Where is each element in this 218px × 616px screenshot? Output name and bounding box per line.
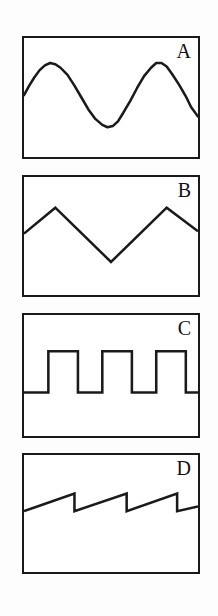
sine-wave-path — [24, 63, 198, 127]
panel-label-d: D — [177, 456, 191, 480]
waveform-plot-triangle — [24, 177, 198, 295]
figure-root: A B C D — [0, 0, 218, 616]
waveform-panel-a: A — [22, 36, 200, 159]
waveform-panel-b: B — [22, 175, 200, 297]
waveform-plot-sawtooth — [24, 455, 198, 572]
waveform-plot-square — [24, 315, 198, 436]
square-wave-path — [24, 351, 198, 392]
waveform-panel-c: C — [22, 313, 200, 438]
panel-label-b: B — [178, 178, 191, 202]
panel-label-c: C — [178, 316, 191, 340]
waveform-plot-sine — [24, 38, 198, 157]
panel-label-a: A — [177, 39, 191, 63]
sawtooth-wave-path — [24, 494, 198, 512]
waveform-panel-d: D — [22, 453, 200, 574]
triangle-wave-path — [24, 208, 198, 262]
